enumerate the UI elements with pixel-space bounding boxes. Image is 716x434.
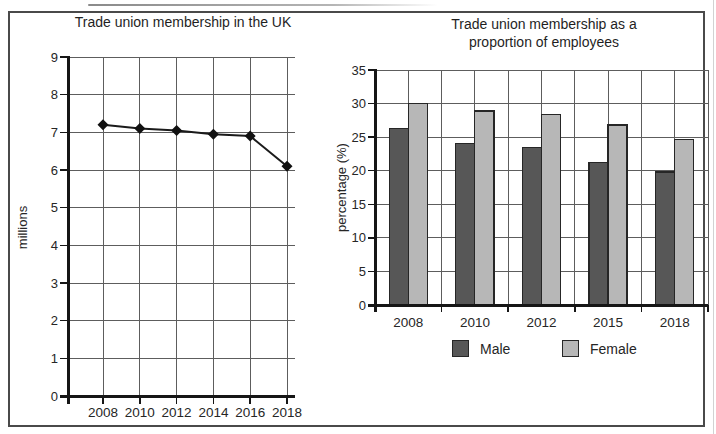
bar-female (675, 139, 694, 305)
legend-item-female: Female (562, 340, 637, 357)
y-tick-label: 0 (51, 389, 58, 404)
y-tick-label: 0 (359, 298, 366, 313)
y-tick-label: 5 (51, 200, 58, 215)
y-tick-label: 4 (51, 238, 58, 253)
figure-canvas: 0123456789200820102012201420162018051015… (0, 0, 716, 434)
x-tick-label: 2012 (526, 315, 556, 330)
x-tick-label: 2016 (235, 405, 265, 420)
legend-item-male: Male (452, 340, 510, 357)
male-legend-label: Male (480, 341, 510, 357)
y-tick-label: 2 (51, 313, 58, 328)
female-legend-swatch (562, 340, 579, 357)
bar-chart-title: Trade union membership as a proportion o… (430, 15, 658, 51)
x-tick-label: 2014 (198, 405, 229, 420)
bar-male (589, 163, 608, 305)
bar-chart-y-axis-label: percentage (%) (334, 118, 349, 258)
x-tick-label: 2018 (660, 315, 690, 330)
y-tick-label: 1 (51, 351, 58, 366)
y-tick-label: 30 (352, 96, 366, 111)
x-tick-label: 2010 (460, 315, 490, 330)
bar-male (523, 147, 542, 305)
bar-female (475, 111, 494, 305)
line-chart-title: Trade union membership in the UK (48, 13, 318, 31)
y-tick-label: 20 (352, 163, 366, 178)
x-tick-label: 2015 (593, 315, 623, 330)
x-tick-label: 2008 (88, 405, 118, 420)
data-point-marker (171, 125, 182, 136)
y-tick-label: 5 (359, 264, 366, 279)
charts-svg: 0123456789200820102012201420162018051015… (0, 0, 716, 434)
bar-chart-title-line1: Trade union membership as a (430, 15, 658, 33)
bar-female (608, 125, 627, 305)
data-line (103, 125, 287, 166)
y-tick-label: 8 (51, 87, 58, 102)
y-tick-label: 10 (352, 230, 366, 245)
x-tick-label: 2012 (162, 405, 192, 420)
line-chart-y-axis-label: millions (15, 168, 30, 288)
bar-male (389, 128, 408, 305)
male-legend-swatch (452, 340, 469, 357)
y-tick-label: 15 (352, 197, 366, 212)
bar-male (456, 144, 475, 305)
y-tick-label: 25 (352, 130, 366, 145)
y-tick-label: 9 (51, 50, 58, 65)
bar-female (542, 114, 561, 305)
x-tick-label: 2010 (125, 405, 155, 420)
bar-male (656, 172, 675, 305)
female-legend-label: Female (590, 341, 637, 357)
x-tick-label: 2018 (272, 405, 302, 420)
y-tick-label: 35 (352, 63, 366, 78)
x-tick-label: 2008 (393, 315, 423, 330)
y-tick-label: 6 (51, 163, 58, 178)
bar-female (408, 104, 427, 305)
y-tick-label: 3 (51, 276, 58, 291)
data-point-marker (98, 119, 109, 130)
bar-chart-title-line2: proportion of employees (430, 33, 658, 51)
y-tick-label: 7 (51, 125, 58, 140)
data-point-marker (208, 129, 219, 140)
